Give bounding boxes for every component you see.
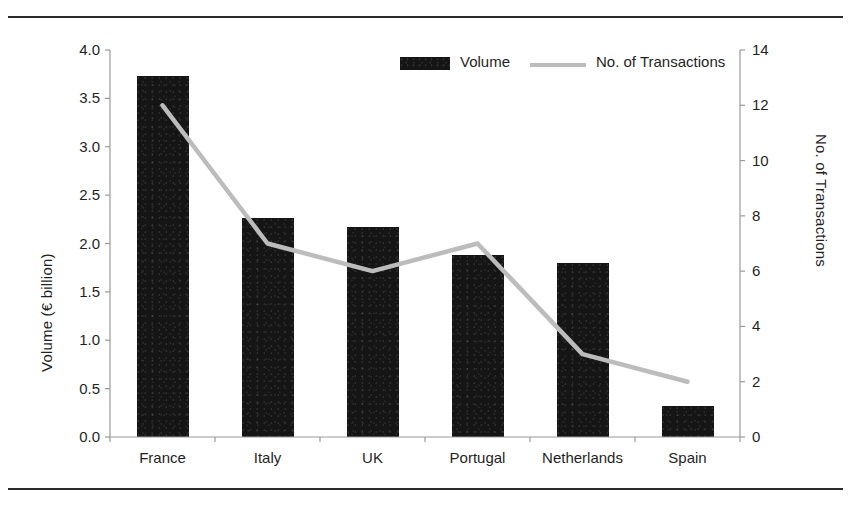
right-axis-tick-label: 12	[752, 96, 792, 113]
right-axis-tick-label: 10	[752, 152, 792, 169]
bar	[242, 218, 294, 437]
category-label: Spain	[635, 449, 740, 466]
right-axis-tick-label: 6	[752, 262, 792, 279]
bar	[662, 406, 714, 437]
bar	[452, 255, 504, 437]
bar	[557, 263, 609, 437]
left-axis-title: Volume (€ billion)	[38, 253, 55, 372]
bar	[347, 227, 399, 437]
left-axis-tick-label: 3.0	[54, 138, 100, 155]
left-axis-tick-label: 4.0	[54, 41, 100, 58]
left-axis-tick-label: 2.5	[54, 186, 100, 203]
legend-swatch-transactions	[530, 63, 586, 67]
right-axis-tick-label: 4	[752, 317, 792, 334]
legend-label-volume: Volume	[460, 53, 510, 70]
left-axis-tick-label: 3.5	[54, 89, 100, 106]
left-axis-tick-label: 1.5	[54, 283, 100, 300]
category-label: UK	[320, 449, 425, 466]
legend-swatch-volume	[400, 57, 450, 70]
category-label: Portugal	[425, 449, 530, 466]
right-axis-tick-label: 2	[752, 373, 792, 390]
left-axis-tick-label: 1.0	[54, 331, 100, 348]
legend-label-transactions: No. of Transactions	[596, 53, 725, 70]
plot-vector-layer	[0, 0, 851, 512]
bottom-horizontal-rule	[8, 488, 843, 490]
category-label: Italy	[215, 449, 320, 466]
right-axis-tick-label: 14	[752, 41, 792, 58]
right-axis-tick-label: 0	[752, 428, 792, 445]
bar	[137, 76, 189, 437]
top-horizontal-rule	[8, 16, 843, 18]
chart-figure: Volume (€ billion) No. of Transactions 0…	[0, 0, 851, 512]
right-axis-tick-label: 8	[752, 207, 792, 224]
category-label: France	[110, 449, 215, 466]
axis-lines	[105, 50, 745, 442]
category-label: Netherlands	[530, 449, 635, 466]
left-axis-tick-label: 0.0	[54, 428, 100, 445]
left-axis-tick-label: 2.0	[54, 235, 100, 252]
right-axis-title: No. of Transactions	[813, 134, 830, 267]
left-axis-tick-label: 0.5	[54, 380, 100, 397]
